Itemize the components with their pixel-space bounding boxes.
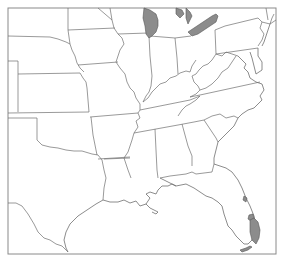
boundary-ga-nc (194, 120, 204, 122)
coast-florida (160, 164, 256, 244)
boundary-ny-ct (266, 8, 268, 20)
boundary-in-mi-oh (150, 36, 191, 38)
boundary-ok-ar (91, 117, 97, 155)
coast-gulf-la (103, 184, 176, 206)
boundary-ks-ok (8, 112, 89, 113)
boundary-oh-pa (215, 30, 216, 54)
coast-nj (262, 24, 270, 46)
boundary-co-ne (8, 61, 18, 112)
lake-huron-bay (186, 8, 192, 24)
florida-coast-patch (243, 196, 247, 202)
boundary-pa-ny (215, 18, 262, 30)
coast-delmarva (250, 48, 262, 74)
boundary-al-ga (182, 124, 192, 166)
boundary-sd-ne (8, 36, 70, 44)
boundary-tn-nc (178, 96, 200, 116)
coast-sc (218, 118, 238, 142)
coast-nc (238, 82, 264, 118)
boundary-ne-ia (70, 44, 84, 72)
boundary-wv-va (200, 56, 236, 90)
boundary-wi-il (118, 33, 148, 34)
coast-chesapeake (238, 56, 256, 82)
us-state-map (0, 0, 289, 266)
boundary-ks-mo (80, 73, 89, 112)
boundary-ia-mo (78, 62, 118, 65)
lake-huron-partial (176, 8, 184, 18)
florida-keys (240, 246, 252, 252)
boundary-rio-grande (8, 203, 68, 252)
boundary-ok-tx (37, 140, 98, 155)
boundary-nc-sc (204, 114, 238, 120)
state-boundaries (8, 8, 276, 252)
boundary-mississippi-lower (124, 121, 138, 178)
boundary-ms-al (155, 129, 158, 178)
boundary-tn-south (134, 122, 194, 133)
lake-michigan (143, 8, 158, 38)
boundary-il-in (143, 36, 152, 102)
boundary-ky-wv (190, 76, 200, 97)
boundary-sc-ga (204, 120, 218, 142)
coast-mississippi-delta (146, 204, 158, 214)
boundary-ia-mn (68, 28, 115, 30)
map-frame (8, 8, 276, 254)
highlighted-regions (143, 8, 260, 252)
boundary-ok-tx-panhandle (8, 118, 37, 140)
boundary-la-tx (98, 155, 106, 200)
boundary-mississippi-upper (98, 8, 140, 113)
coast-ga (214, 142, 218, 164)
boundary-sd-mn (68, 8, 70, 44)
boundary-ne-ks (18, 73, 80, 74)
boundary-pa-md (216, 48, 258, 54)
boundary-oh-wv (192, 54, 216, 76)
boundary-pa-nj (258, 22, 264, 46)
boundary-mo-ar (90, 113, 140, 121)
boundary-in-oh (175, 38, 178, 74)
boundary-al-fl (160, 164, 214, 178)
coast-texas (64, 200, 103, 252)
lake-erie (188, 14, 218, 36)
